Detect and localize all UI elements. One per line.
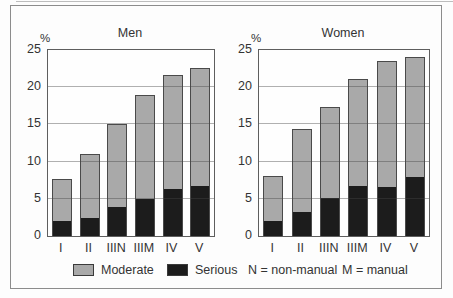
bar-women-IIIM — [348, 79, 368, 236]
gridline-5 — [48, 198, 214, 199]
serious-segment — [264, 221, 282, 236]
serious-segment — [136, 199, 154, 236]
bar-women-V — [405, 57, 425, 236]
bar-men-II — [80, 154, 100, 236]
serious-segment — [81, 218, 99, 236]
bar-men-IV — [163, 75, 183, 236]
bar-men-IIIM — [135, 95, 155, 236]
moderate-swatch-icon — [73, 264, 94, 276]
serious-legend-label: Serious — [195, 263, 237, 277]
bar-men-IIIN — [107, 124, 127, 236]
note-non-manual: N = non-manual — [248, 263, 337, 277]
gridline-5 — [259, 198, 429, 199]
serious-segment — [378, 187, 396, 236]
serious-segment — [108, 207, 126, 236]
moderate-legend-label: Moderate — [101, 263, 154, 277]
serious-segment — [164, 189, 182, 236]
serious-segment — [406, 177, 424, 236]
bar-men-V — [190, 68, 210, 236]
gridline-15 — [259, 123, 429, 124]
gridline-15 — [48, 123, 214, 124]
serious-segment — [53, 221, 71, 236]
figure-frame: Men%IIIIIINIIIMIVV0510152025 Women%IIIII… — [10, 5, 442, 289]
gridline-20 — [259, 86, 429, 87]
gridline-20 — [48, 86, 214, 87]
serious-segment — [349, 186, 367, 236]
bar-women-I — [263, 176, 283, 236]
bar-women-IIIN — [320, 107, 340, 236]
serious-segment — [321, 198, 339, 236]
figure-canvas: Men%IIIIIINIIIMIVV0510152025 Women%IIIII… — [0, 0, 453, 298]
gridline-10 — [259, 161, 429, 162]
note-manual: M = manual — [342, 263, 408, 277]
bar-men-I — [52, 179, 72, 236]
serious-segment — [191, 186, 209, 236]
bar-women-IV — [377, 61, 397, 236]
serious-segment — [293, 212, 311, 236]
bar-women-II — [292, 129, 312, 236]
scan-edge-artifact — [16, 1, 453, 2]
serious-swatch-icon — [167, 264, 188, 276]
gridline-10 — [48, 161, 214, 162]
